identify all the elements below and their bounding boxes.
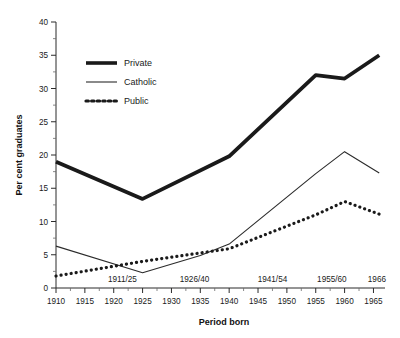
series-line-public xyxy=(56,202,379,276)
series-line-private xyxy=(56,55,379,199)
period-annotation-label: 1911/25 xyxy=(108,275,137,284)
y-tick-label: 25 xyxy=(39,118,49,127)
x-tick-label: 1950 xyxy=(278,297,297,306)
line-chart: Per cent graduates 0510152025303540 1910… xyxy=(0,0,400,338)
x-tick-label: 1920 xyxy=(105,297,124,306)
period-annotations: 1911/251926/401941/541955/601966 xyxy=(108,275,387,284)
x-tick-label: 1935 xyxy=(191,297,210,306)
x-axis-title: Period born xyxy=(199,317,250,327)
y-tick-label: 40 xyxy=(39,18,49,27)
period-annotation-label: 1966 xyxy=(368,275,387,284)
y-axis-tick-labels: 0510152025303540 xyxy=(39,18,49,293)
period-annotation-label: 1941/54 xyxy=(258,275,288,284)
y-axis-ticks xyxy=(51,22,56,288)
x-tick-label: 1925 xyxy=(133,297,152,306)
legend-label-private: Private xyxy=(124,58,152,68)
chart-legend: Private Catholic Public xyxy=(86,58,157,106)
y-tick-label: 0 xyxy=(43,284,48,293)
x-tick-label: 1965 xyxy=(364,297,383,306)
x-tick-label: 1930 xyxy=(162,297,181,306)
chart-container: Per cent graduates 0510152025303540 1910… xyxy=(0,0,400,338)
y-tick-label: 10 xyxy=(39,218,49,227)
y-tick-label: 5 xyxy=(43,251,48,260)
x-tick-label: 1915 xyxy=(76,297,95,306)
x-tick-label: 1945 xyxy=(249,297,268,306)
x-tick-label: 1940 xyxy=(220,297,239,306)
y-tick-label: 15 xyxy=(39,184,49,193)
x-axis-ticks xyxy=(56,288,373,293)
period-annotation-label: 1955/60 xyxy=(317,275,347,284)
y-tick-label: 35 xyxy=(39,51,49,60)
data-series-layer xyxy=(56,55,379,276)
series-line-catholic xyxy=(56,152,379,273)
x-axis-tick-labels: 1910191519201925193019351940194519501955… xyxy=(47,297,383,306)
x-tick-label: 1955 xyxy=(307,297,326,306)
x-tick-label: 1960 xyxy=(335,297,354,306)
period-annotation-label: 1926/40 xyxy=(180,275,210,284)
legend-label-catholic: Catholic xyxy=(124,77,157,87)
y-axis-title: Per cent graduates xyxy=(14,114,24,195)
y-tick-label: 20 xyxy=(39,151,49,160)
x-tick-label: 1910 xyxy=(47,297,66,306)
legend-label-public: Public xyxy=(124,96,149,106)
y-tick-label: 30 xyxy=(39,85,49,94)
